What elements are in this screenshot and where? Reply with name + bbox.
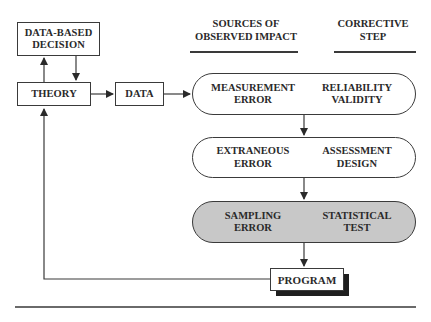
corrective-label: STATISTICAL TEST [309, 210, 405, 235]
header-sources-underline [190, 51, 298, 53]
stage-sampling-error: SAMPLING ERROR STATISTICAL TEST [192, 201, 416, 243]
corrective-label: ASSESSMENT DESIGN [309, 145, 405, 170]
bottom-divider [15, 306, 416, 308]
header-sources-of-observed-impact: SOURCES OF OBSERVED IMPACT [190, 18, 302, 43]
header-corrective-underline [334, 51, 416, 53]
header-corrective-step: CORRECTIVE STEP [330, 18, 416, 43]
stage-extraneous-error: EXTRANEOUS ERROR ASSESSMENT DESIGN [192, 137, 416, 178]
source-label: EXTRANEOUS ERROR [201, 145, 305, 170]
program-box: PROGRAM [270, 268, 344, 291]
source-label: SAMPLING ERROR [201, 210, 305, 235]
corrective-label: RELIABILITY VALIDITY [309, 82, 405, 107]
data-based-decision-box: DATA-BASED DECISION [17, 22, 100, 56]
stage-measurement-error: MEASUREMENT ERROR RELIABILITY VALIDITY [192, 73, 416, 115]
source-label: MEASUREMENT ERROR [201, 82, 305, 107]
feedback-program-to-theory [44, 109, 270, 279]
data-box: DATA [115, 82, 164, 106]
theory-box: THEORY [17, 82, 91, 106]
